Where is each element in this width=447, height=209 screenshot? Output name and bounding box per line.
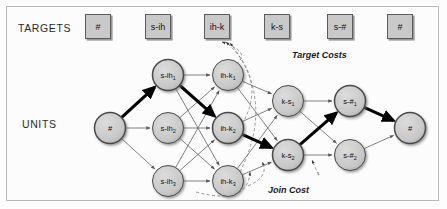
- best-path-edge: [364, 107, 393, 120]
- annotation-join-cost: Join Cost: [268, 185, 310, 195]
- lattice-node[interactable]: s-ih1: [153, 60, 184, 91]
- node-label-subscript: 2: [354, 155, 357, 161]
- node-label-subscript: 1: [292, 101, 295, 107]
- node-label-subscript: 2: [173, 128, 176, 134]
- node-label-subscript: 1: [354, 101, 357, 107]
- node-label-subscript: 3: [233, 181, 236, 187]
- lattice-edge: [242, 108, 271, 121]
- lattice-node[interactable]: #: [395, 113, 426, 144]
- node-label-subscript: 1: [233, 75, 236, 81]
- annotation-target-costs: Target Costs: [292, 50, 347, 60]
- lattice-node[interactable]: k-s2: [273, 140, 304, 171]
- node-label-subscript: 2: [292, 155, 295, 161]
- lattice-node[interactable]: s-ih3: [153, 166, 184, 197]
- node-label-subscript: 1: [173, 75, 176, 81]
- best-path-edge: [180, 85, 215, 116]
- lattice-edge: [180, 138, 215, 169]
- join-cost-edge: [248, 162, 264, 186]
- join-cost-edge: [312, 160, 319, 176]
- lattice-edge: [242, 162, 271, 175]
- lattice-node[interactable]: ih-k1: [213, 60, 244, 91]
- lattice-node[interactable]: #: [95, 113, 126, 144]
- best-path-edge: [121, 87, 154, 117]
- lattice-edge: [180, 140, 215, 171]
- node-label-subscript: 2: [233, 128, 236, 134]
- figure-canvas: TARGETS UNITS #s-ihih-kk-ss-## #s-ih1s-i…: [0, 0, 447, 209]
- lattice-edge: [242, 81, 271, 94]
- node-label-subscript: 3: [173, 181, 176, 187]
- lattice-node[interactable]: s-#2: [335, 140, 366, 171]
- lattice-edge: [121, 138, 154, 168]
- lattice-node[interactable]: k-s1: [273, 86, 304, 117]
- lattice-node[interactable]: s-ih2: [153, 113, 184, 144]
- lattice-node[interactable]: ih-k3: [213, 166, 244, 197]
- lattice-edge: [364, 135, 393, 148]
- lattice-graph: #s-ih1s-ih2s-ih3ih-k1ih-k2ih-k3k-s1k-s2s…: [0, 0, 447, 209]
- best-path-edge: [300, 113, 337, 145]
- lattice-node[interactable]: s-#1: [335, 86, 366, 117]
- lattice-node[interactable]: ih-k2: [213, 113, 244, 144]
- best-path-edge: [242, 134, 271, 147]
